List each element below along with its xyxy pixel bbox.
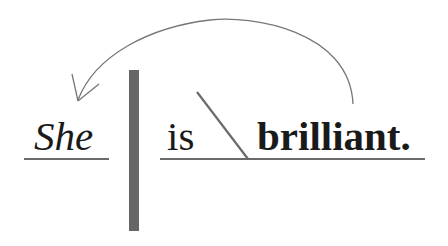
subject-predicate-divider xyxy=(129,70,139,231)
complement-slash xyxy=(197,92,248,159)
reference-arrow xyxy=(78,19,353,104)
subject-word: She xyxy=(34,116,93,157)
arrowhead-icon xyxy=(72,74,99,101)
verb-word: is xyxy=(167,116,194,157)
sentence-diagram: She is brilliant. xyxy=(0,0,448,246)
complement-word: brilliant. xyxy=(257,116,411,157)
